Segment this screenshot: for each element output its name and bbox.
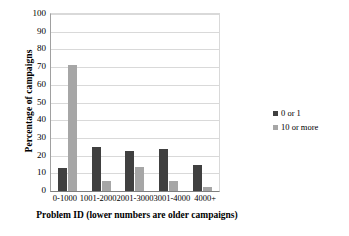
chart-legend: 0 or 110 or more [273,106,349,134]
y-tick-label: 10 [18,167,46,177]
plot-area [50,13,220,192]
y-tick-label: 50 [18,97,46,107]
bar [159,149,168,191]
x-tick-label: 0-1000 [50,193,80,204]
legend-label: 0 or 1 [281,108,301,118]
bar [125,151,134,191]
legend-item[interactable]: 10 or more [273,120,349,134]
bar-group [152,14,186,191]
bar-group [185,14,219,191]
x-tick-label: 1001-2000 [80,193,117,204]
legend-swatch-icon [273,125,278,130]
bar-group [51,14,85,191]
y-tick-label: 100 [18,8,46,18]
x-tick-label: 4000+ [190,193,220,204]
bar [169,181,178,191]
x-axis-title: Problem ID (lower numbers are older camp… [12,210,262,220]
y-tick-label: 60 [18,79,46,89]
y-tick-label: 80 [18,43,46,53]
x-tick-label: 3001-4000 [153,193,190,204]
bar [102,181,111,191]
x-tick-label: 2001-3000 [117,193,154,204]
bar [203,187,212,191]
bar-chart-figure: Percentage of campaigns 1009080706050403… [0,0,349,236]
bar [58,168,67,191]
legend-item[interactable]: 0 or 1 [273,106,349,120]
y-tick-label: 30 [18,132,46,142]
y-tick-label: 20 [18,150,46,160]
bar [135,167,144,191]
y-tick-label: 90 [18,26,46,36]
y-axis-tick-labels: 1009080706050403020100 [18,8,46,192]
legend-swatch-icon [273,111,278,116]
bar [92,147,101,191]
bar-group [85,14,119,191]
y-tick-label: 0 [18,185,46,195]
y-tick-label: 70 [18,61,46,71]
y-tick-label: 40 [18,114,46,124]
x-axis-tick-labels: 0-10001001-20002001-30003001-40004000+ [50,193,220,204]
bar [68,65,77,191]
bars-layer [51,14,219,191]
bar [193,165,202,191]
legend-label: 10 or more [281,122,318,132]
bar-group [118,14,152,191]
